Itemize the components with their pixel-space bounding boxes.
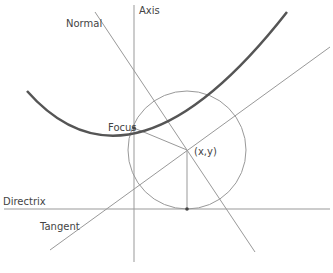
- directrix-label: Directrix: [3, 196, 46, 207]
- parabola-curve: [27, 12, 287, 136]
- normal-label: Normal: [66, 18, 102, 29]
- tangent-line: [50, 47, 330, 250]
- focus-label: Focus: [108, 122, 137, 133]
- axis-label: Axis: [139, 5, 160, 16]
- point-label: (x,y): [194, 146, 217, 157]
- tangent-label: Tangent: [39, 221, 80, 232]
- directrix-foot-dot: [185, 207, 189, 211]
- parabola-diagram: Axis Normal Focus (x,y) Directrix Tangen…: [0, 0, 333, 273]
